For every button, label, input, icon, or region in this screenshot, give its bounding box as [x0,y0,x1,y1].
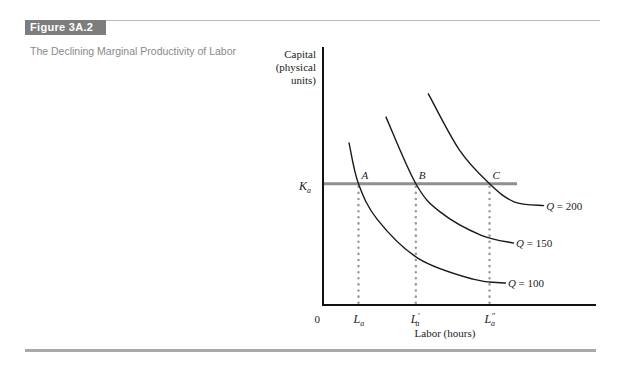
y-axis-label-line-1: Capital [284,48,316,60]
origin-label: 0 [315,313,321,325]
isoquant-label-value: = 100 [516,277,545,289]
isoquant-label: Q = 200 [546,200,583,212]
isoquant-label: Q = 150 [516,237,553,249]
y-tick-ka-sub: a [307,186,311,195]
isoquant-label-q: Q [516,237,524,249]
point-label: C [493,169,501,181]
point-label: A [360,169,368,181]
point-label: B [419,169,426,181]
isoquant-label-value: = 200 [554,200,583,212]
x-tick-sub: a [491,319,495,328]
y-axis-label-line-3: units) [291,74,316,87]
y-tick-ka: Ka [298,179,311,195]
x-tick-label: La [352,312,364,328]
x-axis-label: Labor (hours) [415,327,476,340]
x-tick-sub: a [360,319,364,328]
isoquant-label-value: = 150 [524,237,553,249]
isoquant-label-q: Q [546,200,554,212]
isoquant-curve [349,142,506,283]
bottom-rule [25,349,596,352]
isoquant-chart: Capital (physical units) Ka ABC 0 LaL′aL… [0,0,625,368]
x-tick-label: L″a [484,311,496,328]
y-axis-label-line-2: (physical [276,61,316,74]
isoquant-label: Q = 100 [508,277,545,289]
x-tick-label: L′a [410,311,421,328]
isoquant-label-q: Q [508,277,516,289]
isoquant-curve [428,93,544,205]
